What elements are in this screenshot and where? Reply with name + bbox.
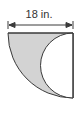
dimension-line (8, 21, 73, 29)
arrow-right-icon (66, 23, 72, 28)
dimension-label: 18 in. (0, 8, 78, 20)
geometry-figure: 18 in. (0, 0, 78, 114)
arrow-left-icon (9, 23, 15, 28)
